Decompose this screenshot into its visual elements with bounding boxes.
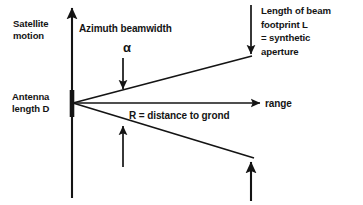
alpha-angle-label: α [123, 42, 131, 54]
sar-geometry-diagram: Satellite motion Azimuth beamwidth α Ant… [0, 0, 363, 205]
beam-edge-upper [73, 56, 252, 103]
antenna-length-label: Antenna length D [12, 91, 49, 114]
satellite-motion-label: Satellite motion [13, 18, 49, 41]
distance-to-ground-label: R = distance to grond [129, 110, 229, 122]
beam-footprint-label: Length of beam footprint L = synthetic a… [261, 4, 331, 58]
azimuth-beamwidth-label: Azimuth beamwidth [79, 23, 172, 35]
range-axis-label: range [265, 98, 292, 110]
